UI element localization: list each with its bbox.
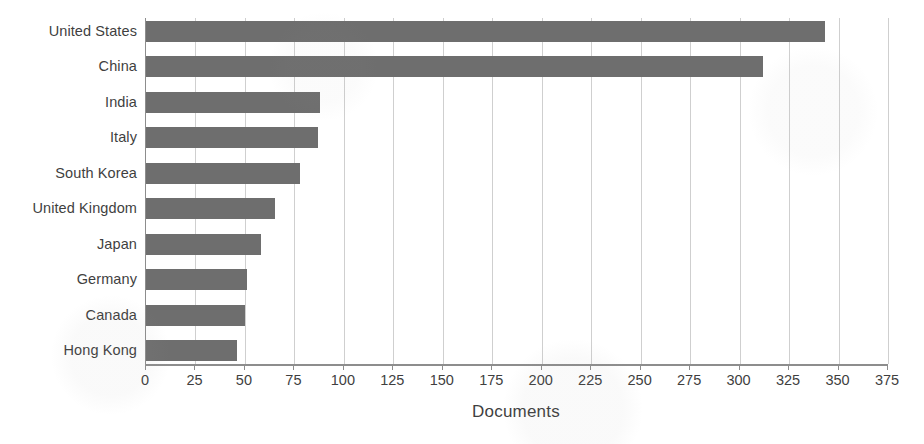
x-axis-tick-label: 275 (677, 372, 701, 388)
x-axis-tick-label: 75 (285, 372, 301, 388)
gridline (888, 18, 889, 364)
x-axis-tick (541, 364, 542, 370)
category-label: United Kingdom (0, 198, 137, 219)
documents-by-country-bar-chart: United StatesChinaIndiaItalySouth KoreaU… (0, 0, 924, 444)
x-axis-ticks (145, 364, 887, 371)
bar-row (146, 21, 888, 42)
x-axis-tick (343, 364, 344, 370)
x-axis-tick-label: 125 (380, 372, 404, 388)
x-axis-tick-label: 250 (628, 372, 652, 388)
bar (146, 198, 275, 219)
x-axis-tick-label: 375 (875, 372, 899, 388)
bar (146, 21, 825, 42)
x-axis-tick-label: 300 (726, 372, 750, 388)
bar-row (146, 163, 888, 184)
bar (146, 127, 318, 148)
x-axis-tick (491, 364, 492, 370)
category-label: Italy (0, 127, 137, 148)
bar-row (146, 127, 888, 148)
x-axis-tick (194, 364, 195, 370)
category-label: Hong Kong (0, 340, 137, 361)
bar-row (146, 305, 888, 326)
bar-row (146, 269, 888, 290)
x-axis-tick (739, 364, 740, 370)
bar (146, 269, 247, 290)
bar (146, 340, 237, 361)
x-axis-tick-label: 225 (578, 372, 602, 388)
x-axis-tick (392, 364, 393, 370)
bar (146, 305, 245, 326)
bar-row (146, 56, 888, 77)
x-axis-tick-label: 350 (825, 372, 849, 388)
category-label: South Korea (0, 163, 137, 184)
x-axis-tick (788, 364, 789, 370)
category-label: Japan (0, 234, 137, 255)
bar-row (146, 198, 888, 219)
category-label: Canada (0, 305, 137, 326)
bar-series (146, 18, 888, 364)
category-label: Germany (0, 269, 137, 290)
category-label: India (0, 92, 137, 113)
x-axis-tick-label: 325 (776, 372, 800, 388)
x-axis-tick-label: 150 (430, 372, 454, 388)
x-axis-tick (293, 364, 294, 370)
x-axis-tick-label: 0 (141, 372, 149, 388)
x-axis-tick (442, 364, 443, 370)
x-axis-tick (590, 364, 591, 370)
category-axis-labels: United StatesChinaIndiaItalySouth KoreaU… (0, 18, 137, 364)
plot-area (145, 18, 888, 364)
x-axis-tick-label: 200 (529, 372, 553, 388)
bar (146, 92, 320, 113)
bar (146, 56, 763, 77)
bar-row (146, 92, 888, 113)
x-axis-tick-label: 50 (236, 372, 252, 388)
x-axis-tick (887, 364, 888, 370)
x-axis-tick (640, 364, 641, 370)
category-label: China (0, 56, 137, 77)
x-axis-tick (838, 364, 839, 370)
x-axis-tick (244, 364, 245, 370)
category-label: United States (0, 21, 137, 42)
x-axis-tick-labels: 0255075100125150175200225250275300325350… (145, 372, 887, 392)
x-axis-tick-label: 175 (479, 372, 503, 388)
x-axis-tick-label: 25 (186, 372, 202, 388)
bar (146, 163, 300, 184)
x-axis-title: Documents (145, 402, 887, 422)
bar-row (146, 234, 888, 255)
bar-row (146, 340, 888, 361)
x-axis-tick (689, 364, 690, 370)
x-axis-tick (145, 364, 146, 370)
x-axis-tick-label: 100 (331, 372, 355, 388)
bar (146, 234, 261, 255)
